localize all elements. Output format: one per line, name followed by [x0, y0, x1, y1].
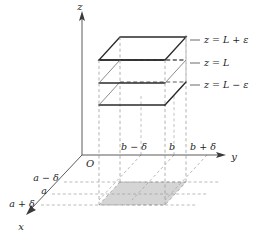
plane-lower-left-edge [99, 82, 120, 105]
z-axis-label: z [76, 1, 83, 12]
plane-top-face [99, 37, 186, 60]
plane-middle-right-edge [165, 60, 186, 83]
plane-middle-left-edge [99, 60, 120, 83]
plane-z-L-minus-epsilon [99, 82, 186, 105]
x-tick-label-a: a [41, 185, 47, 196]
y-tick-label-b: b [169, 141, 175, 152]
plane-z-L [99, 60, 186, 83]
x-tick-label-a-plus-delta: a + δ [9, 198, 35, 209]
delta-neighborhood-shaded-region [99, 182, 186, 205]
origin-label: O [86, 158, 94, 169]
z-level-label-lower: z = L − ε [203, 79, 248, 90]
y-tick-label-b-minus-delta: b − δ [121, 141, 147, 152]
plane-z-L-plus-epsilon [99, 37, 186, 60]
plane-lower-right-outer-edge [165, 82, 186, 105]
figure-root: z y x O z = L + ε z = L z = L − ε b − δ … [0, 0, 256, 235]
z-level-label-middle: z = L [203, 57, 229, 68]
y-axis-label: y [230, 151, 237, 162]
x-tick-label-a-minus-delta: a − δ [33, 172, 59, 183]
z-level-leader-lines [190, 40, 200, 85]
x-axis-label: x [18, 221, 24, 232]
y-tick-label-b-plus-delta: b + δ [190, 141, 216, 152]
base-plane-group [99, 182, 186, 205]
diagram-svg: z y x O z = L + ε z = L z = L − ε b − δ … [0, 0, 256, 235]
z-level-label-upper: z = L + ε [203, 34, 248, 45]
